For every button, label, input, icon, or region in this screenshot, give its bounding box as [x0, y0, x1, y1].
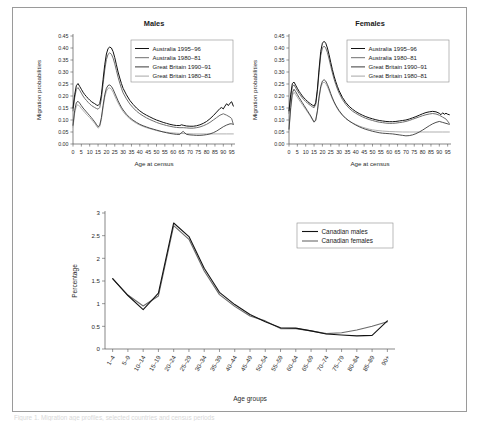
- x-tick-label: 50–54: [254, 353, 269, 372]
- legend-label-3: Great Britain 1980–81: [369, 73, 428, 79]
- x-tick-label: 80–84: [346, 353, 361, 372]
- y-tick-label: 0.25: [274, 81, 284, 87]
- y-tick-label: 1: [97, 300, 101, 307]
- chart-title-females: Females: [355, 19, 385, 28]
- females-chart-svg: Females0.000.050.100.150.200.250.300.350…: [243, 14, 458, 202]
- x-tick-label: 80: [420, 149, 426, 155]
- legend-label-1: Australia 1980–81: [153, 55, 202, 61]
- x-tick-label: 35: [345, 149, 351, 155]
- chart-panel-females: Females0.000.050.100.150.200.250.300.350…: [243, 14, 458, 202]
- y-axis-title: Percentage: [71, 264, 79, 298]
- x-tick-label: 90: [436, 149, 442, 155]
- y-tick-label: 0.05: [274, 129, 284, 135]
- y-tick-label: 0.20: [274, 93, 284, 99]
- y-tick-label: 0.40: [58, 45, 68, 51]
- x-tick-label: 90: [220, 149, 226, 155]
- x-tick-label: 5: [296, 149, 299, 155]
- x-tick-label: 85: [428, 149, 434, 155]
- y-tick-label: 0.5: [92, 323, 101, 330]
- y-tick-label: 0.10: [274, 117, 284, 123]
- x-tick-label: 40: [353, 149, 359, 155]
- x-tick-label: 65–69: [300, 353, 315, 372]
- x-tick-label: 60: [386, 149, 392, 155]
- x-tick-label: 60–64: [285, 353, 300, 372]
- x-tick-label: 70: [187, 149, 193, 155]
- chart-title-males: Males: [144, 19, 165, 28]
- x-axis-title: Age at census: [134, 160, 173, 167]
- figure-caption: Figure 1. Migration age profiles, select…: [14, 414, 464, 421]
- x-tick-label: 15: [311, 149, 317, 155]
- x-tick-label: 95: [445, 149, 451, 155]
- canada-chart-svg: 00.511.522.53Percentage1–45–910–1415–192…: [65, 201, 415, 409]
- y-axis-title: Migration probabilities: [251, 60, 258, 120]
- y-tick-label: 0.40: [274, 45, 284, 51]
- y-tick-label: 0.30: [58, 69, 68, 75]
- x-tick-label: 45–49: [239, 353, 254, 372]
- x-tick-label: 1–4: [105, 353, 116, 366]
- x-tick-label: 50: [370, 149, 376, 155]
- x-tick-label: 75: [411, 149, 417, 155]
- x-tick-label: 55: [378, 149, 384, 155]
- legend-label-1: Australia 1980–81: [369, 55, 418, 61]
- x-tick-label: 65: [179, 149, 185, 155]
- y-tick-label: 0.10: [58, 117, 68, 123]
- y-tick-label: 0.05: [58, 129, 68, 135]
- legend-label-0: Australia 1995–96: [369, 46, 418, 52]
- x-tick-label: 35–39: [208, 353, 223, 372]
- x-tick-label: 15: [95, 149, 101, 155]
- x-tick-label: 15–19: [147, 353, 162, 372]
- x-tick-label: 85: [212, 149, 218, 155]
- y-tick-label: 2.5: [92, 232, 101, 239]
- x-tick-label: 20: [319, 149, 325, 155]
- x-tick-label: 25: [328, 149, 334, 155]
- x-tick-label: 35: [129, 149, 135, 155]
- x-tick-label: 30–34: [193, 353, 208, 372]
- figure-frame: Males0.000.050.100.150.200.250.300.350.4…: [12, 7, 467, 412]
- x-tick-label: 40: [137, 149, 143, 155]
- x-tick-label: 65: [395, 149, 401, 155]
- legend-label-2: Great Britain 1990–91: [153, 64, 212, 70]
- y-tick-label: 0.35: [58, 57, 68, 63]
- x-tick-label: 70: [403, 149, 409, 155]
- x-axis-title: Age groups: [233, 395, 267, 403]
- y-tick-label: 0.30: [274, 69, 284, 75]
- x-tick-label: 75: [195, 149, 201, 155]
- y-tick-label: 3: [97, 209, 101, 216]
- x-tick-label: 30: [120, 149, 126, 155]
- y-tick-label: 1.5: [92, 277, 101, 284]
- chart-panel-canada: 00.511.522.53Percentage1–45–910–1415–192…: [65, 201, 415, 409]
- x-axis-title: Age at census: [350, 160, 389, 167]
- chart-panel-males: Males0.000.050.100.150.200.250.300.350.4…: [27, 14, 242, 202]
- y-tick-label: 0.45: [58, 33, 68, 39]
- x-tick-label: 80: [204, 149, 210, 155]
- y-axis-title: Migration probabilities: [35, 60, 42, 120]
- y-tick-label: 0.15: [58, 105, 68, 111]
- x-tick-label: 25–29: [178, 353, 193, 372]
- series-line-2: [73, 85, 233, 135]
- x-tick-label: 0: [288, 149, 291, 155]
- series-line-3: [73, 88, 233, 134]
- x-tick-label: 90+: [380, 354, 391, 367]
- x-tick-label: 5: [80, 149, 83, 155]
- x-tick-label: 20: [103, 149, 109, 155]
- x-tick-label: 30: [336, 149, 342, 155]
- x-tick-label: 25: [112, 149, 118, 155]
- x-tick-label: 85–89: [361, 353, 376, 372]
- x-tick-label: 10: [87, 149, 93, 155]
- y-tick-label: 2: [97, 255, 101, 262]
- x-tick-label: 55–59: [269, 353, 284, 372]
- y-tick-label: 0: [97, 345, 101, 352]
- y-tick-label: 0.25: [58, 81, 68, 87]
- y-tick-label: 0.00: [274, 141, 284, 147]
- x-tick-label: 10: [303, 149, 309, 155]
- x-tick-label: 55: [162, 149, 168, 155]
- x-tick-label: 40–44: [224, 353, 239, 372]
- legend-label-0: Australia 1995–96: [153, 46, 202, 52]
- x-tick-label: 0: [72, 149, 75, 155]
- males-chart-svg: Males0.000.050.100.150.200.250.300.350.4…: [27, 14, 242, 202]
- y-tick-label: 0.45: [274, 33, 284, 39]
- y-tick-label: 0.20: [58, 93, 68, 99]
- x-tick-label: 45: [145, 149, 151, 155]
- x-tick-label: 45: [361, 149, 367, 155]
- legend-label-3: Great Britain 1980–81: [153, 73, 212, 79]
